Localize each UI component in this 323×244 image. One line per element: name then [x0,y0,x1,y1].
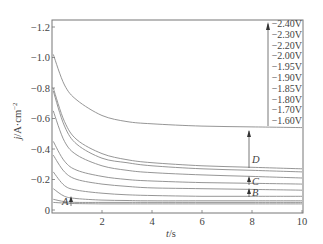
legend-entry: −1.60V [272,115,303,126]
x-tick-label: 6 [199,216,204,227]
legend-entry: −2.20V [272,40,303,51]
y-tick-label: −1.0 [31,52,50,63]
legend-arrow-icon [266,22,270,30]
curve--1.90V [53,155,302,190]
y-axis-label-unit: /A·cm [12,110,23,137]
x-tick-label: 4 [149,216,155,227]
annotation-a-arrow-icon [69,196,73,202]
y-tick-label: −1.2 [31,22,50,33]
chronoamperometry-chart: −1.2−1.0−0.8−0.6−0.4−0.20 246810 j/A·cm−… [0,0,323,244]
plot-frame [52,20,303,213]
legend-entry: −1.90V [272,72,303,83]
y-tick-label: −0.8 [31,83,50,94]
curve--2.20V [53,91,302,172]
x-tick-label: 2 [99,216,104,227]
y-tick-label: −0.2 [31,174,50,185]
legend-entry: −2.00V [272,50,303,61]
x-tick-label: 8 [249,216,254,227]
annotation-b: B [252,187,259,198]
curve-group [53,54,302,204]
x-axis-label: t/s [166,228,176,239]
y-axis-label: j/A·cm−2 [11,102,23,142]
x-axis-label-unit: /s [169,228,176,239]
annotation-c-arrow-icon [247,176,251,182]
y-tick-label: −0.4 [31,144,51,155]
legend-entry: −1.95V [272,61,303,72]
y-tick-label: 0 [45,205,50,216]
y-axis-label-exponent: −2 [11,102,19,110]
legend-entry: −2.40V [272,18,303,29]
legend-entry: −1.85V [272,83,303,94]
curve--2.40V [53,54,302,127]
legend: −2.40V−2.30V−2.20V−2.00V−1.95V−1.90V−1.8… [266,18,303,126]
curve--1.80V [53,189,302,201]
y-tick-label: −0.6 [31,113,50,124]
legend-entry: −1.70V [272,104,303,115]
legend-entry: −2.30V [272,29,303,40]
annotation-d-arrow-icon [247,130,251,137]
annotation-d: D [251,154,260,165]
annotation-c: C [252,176,260,187]
x-tick-label: 10 [297,216,308,227]
curve--2.30V [53,88,302,169]
legend-entry: −1.80V [272,94,303,105]
y-axis-ticks: −1.2−1.0−0.8−0.6−0.4−0.20 [31,22,55,216]
annotation-a: A [61,196,69,207]
curve--1.95V [53,141,302,184]
curve--1.85V [53,172,302,196]
